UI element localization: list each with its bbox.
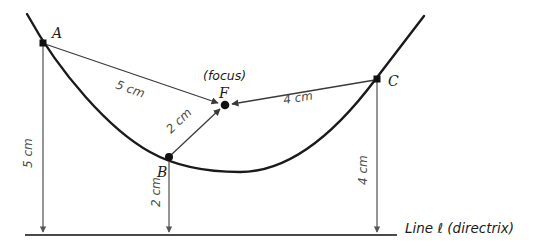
directrix-length-label-c: 4 cm (356, 155, 370, 185)
point-label-c: C (388, 73, 399, 89)
diagram-canvas: A B C F (focus) 5 cm 2 cm 4 cm 5 cm 2 cm… (0, 0, 533, 248)
directrix-caption: Line ℓ (directrix) (405, 220, 514, 236)
point-label-f: F (218, 85, 230, 101)
parabola-diagram: A B C F (focus) 5 cm 2 cm 4 cm 5 cm 2 cm… (0, 0, 533, 248)
directrix-length-label-b: 2 cm (149, 177, 163, 207)
point-label-a: A (50, 25, 62, 41)
focal-length-label-b-f: 2 cm (163, 105, 194, 136)
point-marker-c (374, 76, 381, 83)
directrix-length-label-a: 5 cm (21, 138, 35, 168)
point-marker-a (40, 40, 47, 47)
focal-length-label-c-f: 4 cm (282, 88, 314, 106)
point-marker-b (165, 153, 173, 161)
focal-length-label-a-f: 5 cm (114, 78, 147, 101)
focus-note-label: (focus) (203, 68, 246, 83)
point-marker-f (221, 101, 230, 110)
